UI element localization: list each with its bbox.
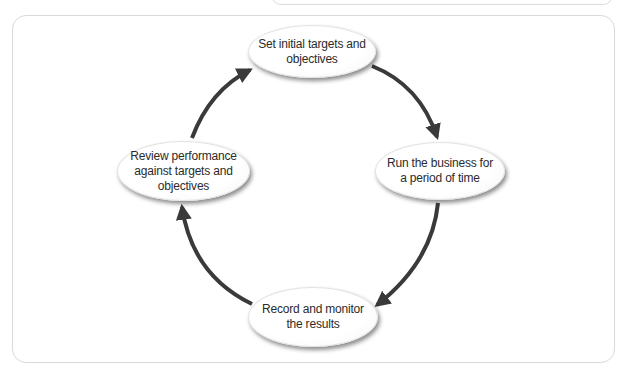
arrow-run-to-record	[377, 203, 438, 305]
node-set-targets: Set initial targets and objectives	[248, 25, 376, 78]
arrow-set-to-run	[372, 66, 437, 137]
node-run-business: Run the business for a period of time	[375, 142, 505, 200]
node-review-performance-label: Review performance against targets and o…	[130, 149, 236, 194]
node-run-business-label: Run the business for a period of time	[387, 156, 493, 186]
node-set-targets-label: Set initial targets and objectives	[258, 37, 365, 67]
arrow-review-to-set	[192, 70, 250, 138]
arrow-record-to-review	[182, 207, 252, 304]
node-review-performance: Review performance against targets and o…	[117, 141, 250, 201]
node-record-monitor: Record and monitor the results	[248, 287, 378, 347]
node-record-monitor-label: Record and monitor the results	[262, 302, 364, 332]
